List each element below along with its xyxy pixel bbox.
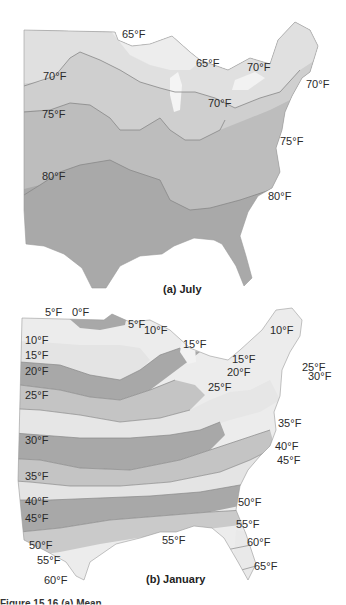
january-isotherm-label: 55°F	[37, 554, 60, 566]
january-isotherm-label: 40°F	[25, 495, 48, 507]
january-isotherm-label: 50°F	[29, 539, 52, 551]
january-isotherm-label: 65°F	[254, 560, 277, 572]
july-isotherm-label: 75°F	[280, 135, 303, 147]
january-isotherm-label: 15°F	[25, 349, 48, 361]
january-isotherm-label: 20°F	[25, 365, 48, 377]
january-isotherm-label: 5°F	[128, 318, 145, 330]
july-isotherm-label: 65°F	[122, 28, 145, 40]
july-isotherm-label: 80°F	[42, 170, 65, 182]
july-isotherm-label: 70°F	[247, 61, 270, 73]
january-isotherm-label: 15°F	[183, 338, 206, 350]
july-map-title: (a) July	[163, 283, 202, 295]
january-isotherm-label: 40°F	[275, 440, 298, 452]
july-isotherm-label: 70°F	[43, 70, 66, 82]
july-isotherm-label: 70°F	[306, 78, 329, 90]
january-isotherm-label: 30°F	[25, 434, 48, 446]
january-isotherm-label: 0°F	[72, 306, 89, 318]
january-isotherm-label: 55°F	[236, 518, 259, 530]
january-isotherm-label: 10°F	[270, 324, 293, 336]
july-map	[0, 0, 346, 300]
january-isotherm-label: 15°F	[232, 353, 255, 365]
january-isotherm-label: 20°F	[227, 366, 250, 378]
january-isotherm-label: 60°F	[247, 536, 270, 548]
july-isotherm-label: 80°F	[268, 190, 291, 202]
january-isotherm-label: 45°F	[277, 454, 300, 466]
figure-caption: Figure 15.16 (a) Mean ...	[0, 598, 113, 605]
july-isotherm-label: 70°F	[208, 97, 231, 109]
january-map-title: (b) January	[146, 573, 205, 585]
january-isotherm-label: 35°F	[25, 470, 48, 482]
january-isotherm-label: 30°F	[308, 370, 331, 382]
january-isotherm-label: 60°F	[44, 574, 67, 586]
january-isotherm-label: 35°F	[278, 417, 301, 429]
january-isotherm-label: 10°F	[25, 334, 48, 346]
january-isotherm-label: 25°F	[25, 389, 48, 401]
july-isotherm-label: 65°F	[196, 57, 219, 69]
january-isotherm-label: 5°F	[45, 306, 62, 318]
january-isotherm-label: 10°F	[144, 324, 167, 336]
january-isotherm-label: 50°F	[238, 496, 261, 508]
january-isotherm-label: 25°F	[208, 381, 231, 393]
january-isotherm-label: 55°F	[162, 534, 185, 546]
july-map-shape	[0, 0, 346, 300]
january-isotherm-label: 45°F	[25, 512, 48, 524]
july-isotherm-label: 75°F	[42, 108, 65, 120]
